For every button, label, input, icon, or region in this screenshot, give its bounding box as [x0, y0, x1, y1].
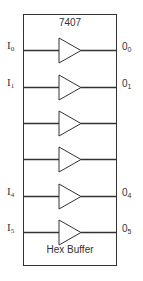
buffer-triangle-icon — [59, 220, 81, 245]
output-label: 05 — [122, 224, 131, 237]
buffer-gate — [23, 220, 117, 245]
buffer-gate — [23, 38, 117, 63]
buffer-triangle-icon — [59, 184, 81, 209]
buffer-triangle-icon — [59, 111, 81, 136]
buffer-triangle-icon — [59, 147, 81, 172]
input-label: I1 — [7, 77, 14, 92]
chip-part-number: 7407 — [23, 17, 117, 28]
output-label: 04 — [122, 188, 131, 201]
buffer-gate — [23, 184, 117, 209]
buffer-gate — [23, 75, 117, 100]
buffer-triangle-icon — [59, 75, 81, 100]
buffer-gate — [23, 111, 117, 136]
output-label: 01 — [122, 79, 131, 92]
buffer-gate — [23, 147, 117, 172]
input-label: I4 — [7, 186, 14, 201]
input-label: I0 — [7, 40, 14, 55]
buffer-triangle-icon — [59, 38, 81, 63]
input-label: I5 — [7, 222, 14, 237]
output-label: 00 — [122, 42, 131, 55]
chip-name: Hex Buffer — [23, 244, 117, 255]
